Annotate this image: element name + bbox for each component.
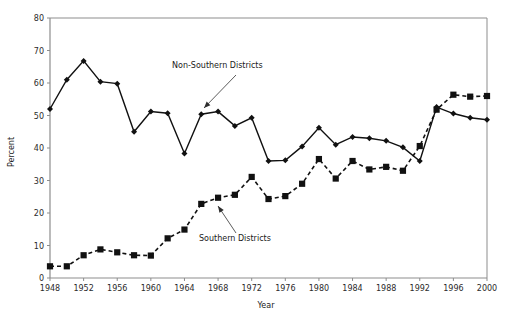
x-tick-label: 1972	[242, 284, 262, 293]
data-point-marker	[417, 143, 423, 149]
data-point-marker	[131, 252, 137, 258]
data-point-marker	[47, 263, 53, 269]
data-point-marker	[148, 252, 154, 258]
data-point-marker	[349, 158, 355, 164]
chart-container: 01020304050607080 1948195219561960196419…	[0, 0, 516, 324]
x-tick-label: 1996	[443, 284, 463, 293]
data-point-marker	[64, 263, 70, 269]
data-point-marker	[467, 94, 473, 100]
x-tick-label: 1992	[410, 284, 430, 293]
annotation-label: Non-Southern Districts	[172, 61, 263, 70]
y-axis-title: Percent	[7, 137, 16, 167]
data-point-marker	[282, 193, 288, 199]
data-point-marker	[299, 181, 305, 187]
y-tick-label: 20	[34, 209, 44, 218]
data-point-marker	[97, 246, 103, 252]
data-point-marker	[383, 164, 389, 170]
y-tick-label: 30	[34, 177, 44, 186]
x-tick-label: 1956	[107, 284, 127, 293]
y-tick-label: 0	[39, 274, 44, 283]
data-point-marker	[114, 249, 120, 255]
annotation-label: Southern Districts	[199, 234, 271, 243]
data-point-marker	[198, 201, 204, 207]
data-point-marker	[450, 92, 456, 98]
y-tick-label: 40	[34, 144, 44, 153]
y-tick-label: 80	[34, 14, 44, 23]
x-tick-label: 1964	[174, 284, 194, 293]
data-point-marker	[232, 192, 238, 198]
x-tick-label: 1960	[141, 284, 161, 293]
x-tick-label: 1988	[376, 284, 396, 293]
data-point-marker	[81, 252, 87, 258]
data-point-marker	[316, 156, 322, 162]
data-point-marker	[215, 195, 221, 201]
data-point-marker	[181, 226, 187, 232]
y-tick-label: 10	[34, 242, 44, 251]
chart-background	[0, 0, 516, 324]
x-tick-label: 1968	[208, 284, 228, 293]
x-tick-label: 1984	[342, 284, 362, 293]
y-tick-label: 70	[34, 47, 44, 56]
data-point-marker	[484, 93, 490, 99]
data-point-marker	[400, 168, 406, 174]
data-point-marker	[333, 175, 339, 181]
y-tick-label: 60	[34, 79, 44, 88]
line-chart: 01020304050607080 1948195219561960196419…	[0, 0, 516, 324]
data-point-marker	[165, 235, 171, 241]
data-point-marker	[366, 166, 372, 172]
y-tick-label: 50	[34, 112, 44, 121]
x-tick-label: 1976	[275, 284, 295, 293]
x-tick-label: 1948	[40, 284, 60, 293]
x-axis-title: Year	[257, 301, 276, 310]
x-tick-label: 1980	[309, 284, 329, 293]
x-tick-label: 2000	[477, 284, 497, 293]
data-point-marker	[265, 196, 271, 202]
data-point-marker	[433, 107, 439, 113]
data-point-marker	[249, 174, 255, 180]
x-tick-label: 1952	[73, 284, 93, 293]
